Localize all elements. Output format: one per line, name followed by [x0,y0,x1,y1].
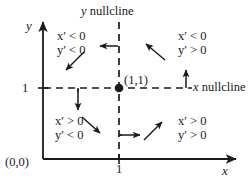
quadrant-upper-right-signs: x′ < 0 y′ > 0 [178,29,207,58]
y-axis-label: y [26,19,32,32]
quadrant-upper-left-xprime: x′ < 0 [57,29,86,43]
quadrant-lower-left-yprime: y′ < 0 [55,128,84,142]
quadrant-lower-right-xprime: x′ > 0 [178,114,207,128]
arrow-upper-right-northwest [146,44,165,60]
equilibrium-point-label: (1,1) [124,74,148,87]
origin-label: (0,0) [5,156,29,169]
quadrant-upper-left-yprime: y′ < 0 [57,43,86,57]
y-nullcline-label: y nullcline [81,5,133,18]
y-axis-tick-label: 1 [22,82,28,95]
equilibrium-point [115,84,124,93]
quadrant-upper-left-signs: x′ < 0 y′ < 0 [57,29,86,58]
quadrant-lower-right-signs: x′ > 0 y′ > 0 [178,114,207,143]
y-nullcline-label-var: y [81,4,87,18]
x-axis-label: x [222,164,228,177]
quadrant-upper-right-yprime: y′ > 0 [178,43,207,57]
arrow-lower-right-northeast [144,122,162,140]
quadrant-upper-right-xprime: x′ < 0 [178,29,207,43]
x-axis-tick-label: 1 [116,163,122,176]
x-nullcline-label: x nullcline [192,81,246,94]
quadrant-lower-right-yprime: y′ > 0 [178,128,207,142]
quadrant-lower-left-signs: x′ > 0 y′ < 0 [55,114,84,143]
arrow-lower-left-southeast [82,117,100,133]
phase-plane-figure: y nullcline x nullcline (1,1) y x 1 1 (0… [0,0,252,179]
y-nullcline-label-text: nullcline [90,4,134,18]
quadrant-lower-left-xprime: x′ > 0 [55,114,84,128]
x-nullcline-label-var: x [193,80,199,94]
x-nullcline-label-text: nullcline [202,80,246,94]
